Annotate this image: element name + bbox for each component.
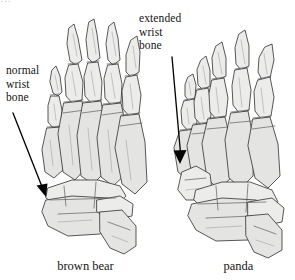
- panda-digit-5: [248, 44, 280, 188]
- normal-wrist-bone-label: normal wrist bone: [6, 64, 39, 105]
- panda-paw: [174, 30, 284, 258]
- brown-bear-paw: [42, 19, 147, 254]
- extended-wrist-bone-label: extended wrist bone: [139, 12, 181, 53]
- brown-bear-caption: brown bear: [18, 259, 153, 274]
- panda-caption: panda: [186, 259, 291, 274]
- panda-digit-4: [225, 30, 254, 188]
- paw-skeleton-figure: …: [0, 0, 295, 280]
